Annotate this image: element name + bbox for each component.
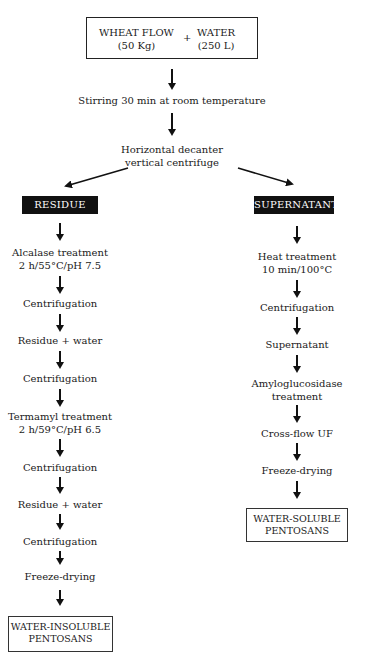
down-arrow-icon	[59, 477, 61, 488]
down-arrow-icon	[296, 226, 298, 238]
step-supernatant: Supernatant	[265, 338, 328, 351]
step-residue-water: Residue + water	[18, 334, 103, 347]
result-line: WATER-INSOLUBLE	[9, 621, 112, 633]
step-line: 2 h/59°C/pH 6.5	[8, 423, 112, 436]
result-line: PENTOSANS	[247, 525, 347, 537]
step-centrifugation: Centrifugation	[23, 461, 97, 474]
step-amyloglucosidase: Amyloglucosidase treatment	[252, 377, 343, 403]
result-line: WATER-SOLUBLE	[247, 513, 347, 525]
step-line: Heat treatment	[258, 250, 336, 263]
down-arrow-icon	[59, 389, 61, 401]
step-line: 10 min/100°C	[258, 263, 336, 276]
down-arrow-icon	[59, 314, 61, 326]
residue-header: RESIDUE	[22, 196, 98, 214]
down-arrow-icon	[296, 280, 298, 292]
step-heat-treatment: Heat treatment 10 min/100°C	[258, 250, 336, 276]
step-line: Termamyl treatment	[8, 410, 112, 423]
step-centrifugation: Centrifugation	[23, 535, 97, 548]
step-line: treatment	[252, 390, 343, 403]
supernatant-header: SUPERNATANT	[254, 196, 334, 214]
down-arrow-icon	[296, 355, 298, 367]
down-arrow-icon	[59, 276, 61, 288]
down-arrow-icon	[296, 317, 298, 329]
down-arrow-icon	[59, 351, 61, 363]
step-line: Amyloglucosidase	[252, 377, 343, 390]
step-freeze-drying: Freeze-drying	[25, 570, 96, 583]
step-line: Alcalase treatment	[12, 246, 108, 259]
step-centrifugation: Centrifugation	[23, 297, 97, 310]
step-alcalase: Alcalase treatment 2 h/55°C/pH 7.5	[12, 246, 108, 272]
down-arrow-icon	[296, 481, 298, 493]
result-water-soluble-pentosans: WATER-SOLUBLE PENTOSANS	[246, 508, 348, 542]
step-residue-water: Residue + water	[18, 498, 103, 511]
down-arrow-icon	[296, 443, 298, 455]
step-line: 2 h/55°C/pH 7.5	[12, 259, 108, 272]
split-arrows-icon	[0, 0, 365, 664]
down-arrow-icon	[59, 439, 61, 451]
step-freeze-drying: Freeze-drying	[262, 464, 333, 477]
down-arrow-icon	[59, 514, 61, 524]
result-line: PENTOSANS	[9, 633, 112, 645]
down-arrow-icon	[59, 551, 61, 559]
down-arrow-icon	[59, 223, 61, 235]
step-cross-flow-uf: Cross-flow UF	[261, 427, 333, 440]
step-centrifugation: Centrifugation	[23, 372, 97, 385]
step-centrifugation: Centrifugation	[260, 301, 334, 314]
result-water-insoluble-pentosans: WATER-INSOLUBLE PENTOSANS	[8, 616, 113, 652]
down-arrow-icon	[296, 405, 298, 417]
down-arrow-icon	[59, 590, 61, 600]
step-termamyl: Termamyl treatment 2 h/59°C/pH 6.5	[8, 410, 112, 436]
